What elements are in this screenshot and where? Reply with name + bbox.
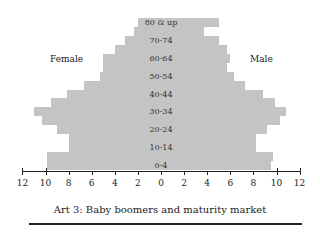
bar-35-39 [51, 98, 275, 107]
age-label: 30-34 [131, 107, 191, 116]
tick-label: 0 [151, 178, 171, 188]
tick-label: 4 [105, 178, 125, 188]
tick-mark [184, 171, 185, 175]
age-label: 40-44 [131, 90, 191, 99]
age-label: 20-24 [131, 125, 191, 134]
tick-label: 10 [267, 178, 287, 188]
population-pyramid-chart: 0-410-1420-2430-3440-4450-5460-6470-7480… [0, 0, 320, 235]
title-underline [29, 223, 302, 225]
tick-mark [161, 171, 162, 175]
tick-mark [253, 171, 254, 175]
tick-label: 4 [197, 178, 217, 188]
bar-25-29 [42, 116, 280, 125]
tick-label: 6 [82, 178, 102, 188]
tick-label: 6 [220, 178, 240, 188]
bar-15-19 [69, 134, 256, 143]
tick-label: 2 [174, 178, 194, 188]
chart-title: Art 3: Baby boomers and maturity market [0, 204, 320, 215]
tick-mark [69, 171, 70, 175]
bar-65-69 [115, 45, 227, 54]
bar-5-9 [47, 152, 273, 161]
tick-mark [277, 168, 278, 175]
age-label: 60-64 [131, 54, 191, 63]
tick-label: 2 [128, 178, 148, 188]
age-label: 0-4 [131, 161, 191, 170]
tick-label: 12 [290, 178, 310, 188]
tick-mark [22, 168, 23, 175]
bar-75-79 [134, 27, 203, 36]
male-label: Male [250, 54, 273, 64]
tick-mark [46, 168, 47, 175]
tick-label: 10 [36, 178, 56, 188]
tick-mark [138, 171, 139, 175]
female-label: Female [50, 54, 83, 64]
age-label: 10-14 [131, 143, 191, 152]
tick-label: 8 [59, 178, 79, 188]
tick-mark [115, 171, 116, 175]
tick-mark [300, 168, 301, 175]
age-label: 50-54 [131, 72, 191, 81]
tick-mark [230, 171, 231, 175]
tick-mark [207, 171, 208, 175]
age-label: 80 & up [131, 18, 191, 27]
tick-label: 12 [12, 178, 32, 188]
tick-label: 8 [243, 178, 263, 188]
tick-mark [92, 171, 93, 175]
age-label: 70-74 [131, 36, 191, 45]
